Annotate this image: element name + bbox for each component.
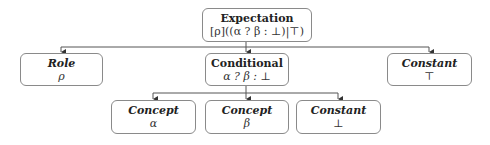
node-expectation: Expectation [ρ]((α ? β : ⊥)|⊤)	[202, 8, 312, 42]
node-conditional: Conditional α ? β : ⊥	[205, 53, 289, 86]
node-title: Expectation	[203, 12, 311, 25]
node-concept-beta: Concept β	[205, 100, 289, 134]
node-expression: β	[206, 117, 288, 130]
node-title: Concept	[112, 104, 195, 117]
node-expression: ⊥	[297, 117, 380, 130]
node-title: Role	[21, 57, 102, 70]
node-constant-top: Constant ⊤	[387, 53, 472, 86]
node-concept-alpha: Concept α	[111, 100, 196, 134]
node-constant-bottom: Constant ⊥	[296, 100, 381, 134]
node-role: Role ρ	[20, 53, 103, 86]
node-title: Constant	[388, 57, 471, 70]
node-expression: α ? β : ⊥	[206, 70, 288, 83]
node-expression: ⊤	[388, 70, 471, 83]
node-expression: α	[112, 117, 195, 130]
node-expression: ρ	[21, 70, 102, 83]
node-title: Constant	[297, 104, 380, 117]
node-title: Conditional	[206, 57, 288, 70]
node-title: Concept	[206, 104, 288, 117]
node-expression: [ρ]((α ? β : ⊥)|⊤)	[203, 25, 311, 38]
